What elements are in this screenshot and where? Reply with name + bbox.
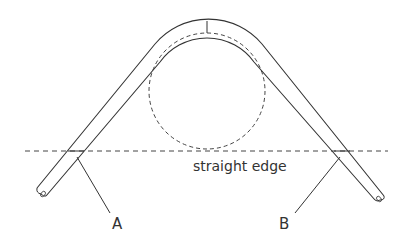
leader-line-b — [295, 157, 340, 213]
bend-form-circle — [149, 33, 265, 149]
tube-end-right-cap — [376, 195, 383, 202]
bent-tube-diagram: straight edge A B — [0, 0, 403, 244]
leader-line-a — [77, 157, 110, 213]
point-a-label: A — [112, 215, 123, 233]
tube-inner-edge — [46, 38, 375, 200]
point-b-label: B — [279, 215, 289, 233]
straight-edge-label: straight edge — [193, 158, 287, 174]
